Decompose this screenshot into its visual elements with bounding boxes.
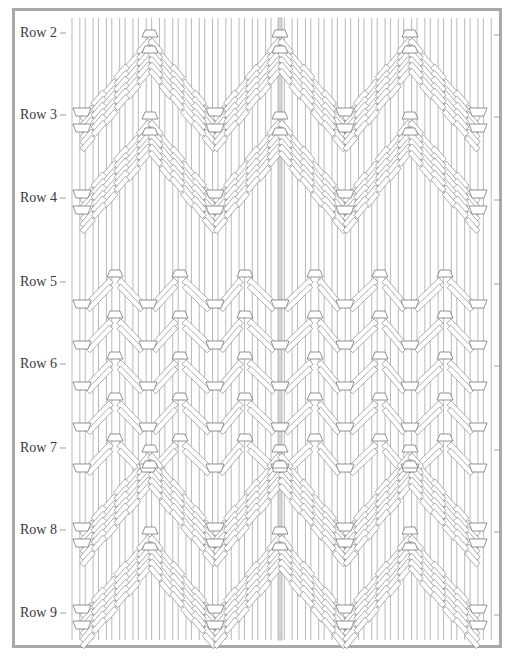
knot-valley [206,523,224,531]
knot-apex [272,461,288,468]
knot-apex [402,46,418,53]
knot-apex [237,311,253,318]
knot-apex [272,543,288,550]
knot-apex [172,393,188,400]
knot-valley [139,300,157,308]
knot-apex [107,311,123,318]
knot-valley [469,423,487,431]
knot-apex [402,461,418,468]
knot-valley [73,464,91,472]
knot-apex [307,393,323,400]
knot-apex [437,393,453,400]
knot-valley [469,539,487,547]
knot-valley [73,300,91,308]
knot-valley [73,108,91,116]
knot-apex [142,461,158,468]
knot-apex [172,311,188,318]
knot-valley [73,523,91,531]
knot-valley [469,464,487,472]
knot-valley [401,300,419,308]
knot-valley [73,124,91,132]
knot-apex [272,445,288,452]
knot-valley [271,341,289,349]
knot-valley [139,382,157,390]
knot-apex [272,30,288,37]
knot-valley [336,108,354,116]
knot-valley [469,124,487,132]
knot-apex [237,270,253,277]
knot-valley [206,621,224,629]
knot-apex [402,543,418,550]
knot-apex [142,128,158,135]
knot-valley [206,539,224,547]
knot-apex [172,434,188,441]
knot-valley [469,206,487,214]
knot-apex [272,128,288,135]
knot-valley [206,190,224,198]
knot-valley [336,423,354,431]
knot-apex [402,30,418,37]
knot-valley [206,206,224,214]
knot-apex [237,352,253,359]
knot-valley [271,300,289,308]
knot-valley [469,108,487,116]
knot-valley [336,300,354,308]
knot-valley [469,523,487,531]
knot-valley [469,621,487,629]
knot-valley [73,190,91,198]
knot-valley [206,382,224,390]
knot-valley [336,539,354,547]
knot-valley [469,382,487,390]
knot-apex [107,270,123,277]
knot-apex [307,270,323,277]
knot-apex [237,434,253,441]
knot-valley [336,621,354,629]
knot-valley [469,605,487,613]
knot-apex [142,112,158,119]
knot-apex [172,270,188,277]
knot-apex [142,30,158,37]
knot-apex [142,46,158,53]
knot-valley [469,190,487,198]
knot-valley [336,206,354,214]
knot-apex [372,311,388,318]
knot-valley [271,423,289,431]
knot-apex [372,393,388,400]
knot-valley [139,423,157,431]
knot-valley [469,341,487,349]
knot-valley [206,605,224,613]
knot-apex [272,46,288,53]
knot-apex [437,434,453,441]
knot-valley [206,108,224,116]
macrame-diagram [0,0,515,658]
knot-valley [401,382,419,390]
knot-apex [272,527,288,534]
knot-valley [336,341,354,349]
knot-valley [206,300,224,308]
knot-valley [336,190,354,198]
knot-apex [372,352,388,359]
knot-apex [272,112,288,119]
knot-valley [206,423,224,431]
knot-apex [142,527,158,534]
knot-apex [402,128,418,135]
knot-valley [206,464,224,472]
knot-valley [73,423,91,431]
knot-valley [271,382,289,390]
knot-valley [401,423,419,431]
knot-valley [336,464,354,472]
knot-valley [336,605,354,613]
knot-valley [73,539,91,547]
knot-apex [307,311,323,318]
knot-apex [437,311,453,318]
knot-apex [172,352,188,359]
knot-valley [139,341,157,349]
knot-apex [437,270,453,277]
knot-apex [437,352,453,359]
knot-apex [372,434,388,441]
knot-valley [73,621,91,629]
knot-valley [73,341,91,349]
knot-apex [402,527,418,534]
knot-valley [336,382,354,390]
knot-apex [107,434,123,441]
